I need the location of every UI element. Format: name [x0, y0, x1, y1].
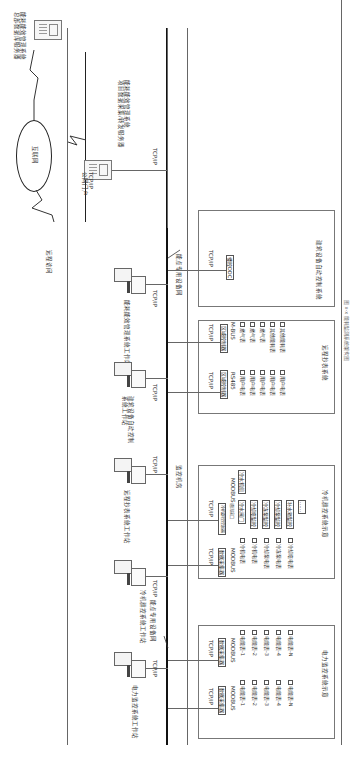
workstation-remote-metering [116, 458, 146, 484]
ws-metering-label: 远程抄表系统工作站 [124, 490, 130, 544]
meter-item: 电能表-N [288, 680, 294, 707]
metering-col2-link: TCP/IP [208, 324, 214, 341]
metering-col1-protocol: RS485 [230, 372, 236, 390]
meter-item: 用户电表 [250, 370, 256, 396]
meter-item: 燃气表 [240, 322, 246, 343]
meter-item: 其他能耗表 [280, 322, 286, 353]
meter-item: 冷冻泵电表 [276, 538, 282, 569]
meter-item: 电能表-1 [240, 630, 246, 656]
chiller-link [168, 520, 220, 521]
bas-subsystem-box [198, 210, 335, 307]
ws-bas-link-label: TCP/IP [152, 384, 158, 401]
chiller-col1-protocol: MODBUS [230, 548, 236, 573]
power-col1-collector: 数据采集器 [218, 686, 226, 715]
ws-metering-link-label: TCP/IP [152, 456, 158, 473]
ws-link [146, 576, 168, 577]
metering-col1-collector: 区域控制器 [220, 370, 228, 399]
bas-ddc-controller: 楼控DDC [226, 255, 234, 280]
bas-link-label: TCP/IP [208, 250, 214, 267]
meter-item: 电能表-N [288, 630, 294, 657]
power-col1-protocol: MODBUS [230, 686, 236, 711]
secondary-bus-label: 能点专用设备网 [150, 600, 156, 642]
meter-item: 用户电表 [260, 370, 266, 396]
meter-item: 冷却塔电表 [288, 538, 294, 569]
metering-title: 远程抄表系统 [322, 345, 328, 381]
chiller-col2-protocol: MODBUS [230, 478, 236, 503]
chiller-col1-link: TCP/IP [208, 548, 214, 565]
ws-link [146, 474, 168, 475]
meter-item: 电能表-4 [276, 680, 282, 706]
power-col2-protocol: MODBUS [230, 638, 236, 663]
power-col1-link: TCP/IP [208, 688, 214, 705]
project-server-label: 能耗能效管理系统 项目数据采集/转发服务器 [118, 80, 130, 148]
meter-item: 用户电表 [270, 370, 276, 396]
meter-item: 燃气表 [250, 322, 256, 343]
ws-energy-label: 能耗能效管理系统工作站 [124, 300, 130, 366]
chiller-device: 补水箱监控 [286, 500, 294, 529]
chiller-col2-sublabel: 通讯接口 [228, 503, 234, 519]
workstation-bas [116, 362, 146, 388]
meter-item: 用户电表 [240, 370, 246, 396]
chiller-col1-collector: 数据采集器 [218, 548, 226, 577]
meter-item: 其他能耗表 [270, 322, 276, 353]
meter-item: 电能表-1 [240, 680, 246, 706]
chiller-link [168, 565, 220, 566]
power-link [168, 708, 220, 709]
chiller-device: 冷水阀门 [238, 500, 246, 524]
chiller-extra-device: 冷水机组 [238, 470, 246, 494]
remote-access-label: 远程访问 [46, 250, 52, 274]
architecture-diagram: 能耗能效管理系统 总部数据库服务器 互联网 远程访问 能耗能效管理系统 项目数据… [0, 0, 352, 769]
chiller-device: 冷却泵监控 [274, 500, 282, 529]
metering-subsystem-box [198, 320, 335, 414]
bas-link-line [168, 270, 227, 271]
metering-link [168, 392, 222, 393]
meter-item: 电能表-4 [276, 630, 282, 656]
power-col2-link: TCP/IP [208, 640, 214, 657]
ws-power-link-label: TCP/IP [152, 660, 158, 677]
meter-item: 冷却泵电表 [264, 538, 270, 569]
ws-chiller-label: 冷机群控系统工作站 [140, 590, 146, 644]
meter-item: 用户电表 [280, 370, 286, 396]
ws-power-label: 电力监控系统工作站 [132, 685, 138, 739]
meter-item: 电能表-2 [252, 680, 258, 706]
meter-item: 冷机电表 [240, 538, 246, 564]
chiller-col2-controller: 冷机群控控制器 [218, 503, 226, 535]
meter-item: 燃气表 [260, 322, 266, 343]
bas-title: 建筑设备自动控制系统 [316, 240, 322, 300]
project-server-link-label: TCP/IP [152, 148, 158, 165]
main-bus-label: 能点专用设备网 [176, 254, 182, 296]
meter-item: 电能表-3 [264, 630, 270, 656]
chiller-device: …… [298, 500, 306, 514]
workstation-power [116, 652, 146, 678]
figure-caption: 图 x-x 能耗监测系统架构图 [344, 300, 350, 361]
meter-item: 电能表-2 [252, 630, 258, 656]
ws-link [146, 378, 168, 379]
chiller-device: 冷冻泵监控 [262, 500, 270, 529]
chiller-title: 冷机群控系统示意 [322, 490, 328, 538]
metering-col2-collector: 区域控制器 [220, 324, 228, 353]
power-link [168, 660, 220, 661]
workstation-chiller [116, 560, 146, 586]
ws-chiller-link-label: TCP/IP [152, 580, 158, 597]
power-col2-collector: 数据采集器 [218, 638, 226, 667]
chiller-device: 冷却塔监控 [250, 500, 258, 529]
metering-link [168, 342, 222, 343]
remote-access-pc-icon [16, 236, 46, 262]
gateway-label: TCP/IP 公网门户 [82, 172, 94, 196]
chiller-col2-link: TCP/IP [208, 500, 214, 517]
ws-energy-link-label: TCP/IP [152, 290, 158, 307]
power-title: 电力监控系统示意 [322, 650, 328, 698]
metering-col1-link: TCP/IP [208, 372, 214, 389]
ws-link [146, 284, 168, 285]
ws-bas-label: 建筑设备自动控制 系统工作站 [122, 396, 134, 444]
metering-col2-protocol: M-BUS [230, 322, 236, 340]
meter-item: 冷机电表 [252, 538, 258, 564]
meter-item: 电能表-3 [264, 680, 270, 706]
project-server-link-line [112, 170, 168, 171]
control-room-label: 监控机房 [176, 465, 182, 489]
workstation-energy-management [116, 268, 146, 294]
